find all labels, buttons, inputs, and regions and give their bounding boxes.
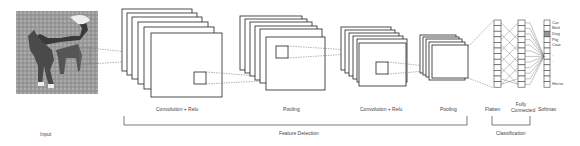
stage-label-pool2: Pooling [440,106,457,112]
fully-connected-layer [518,20,525,87]
softmax-class-cow: Cow [552,42,561,47]
softmax-class-dot: · [552,53,553,58]
softmax-class-cat: Cat [552,20,559,25]
input-image [16,11,98,94]
softmax-class-dog: Dog [552,31,560,36]
cnn-diagram-canvas [0,0,580,146]
input-label: Input [40,131,51,137]
stage-label-flatten: Flatten [485,106,500,112]
stage-label-pool1: Pooling [283,106,300,112]
softmax-layer [544,20,550,87]
stage-label-conv1: Convolution + Relu [156,106,198,112]
softmax-class-pig: Pig [552,37,558,42]
softmax-class-dot: · [552,59,553,64]
group-label-feature-detection: Feature Detection [279,130,319,136]
stage-label-softmax: Softmax [538,106,556,112]
flatten-layer [494,20,501,87]
stage-label-conv2: Convolution + Relu [360,106,402,112]
pool2-feature-maps [420,35,468,80]
softmax-class-horse: Horse [552,81,563,86]
pool1-feature-maps [240,16,325,90]
stage-label-fully-connected: Fully Connected [511,101,531,113]
group-label-classification: Classification [496,130,525,136]
conv2-feature-maps [341,27,407,86]
group-brackets [124,116,530,125]
softmax-class-bird: Bird [552,25,560,30]
